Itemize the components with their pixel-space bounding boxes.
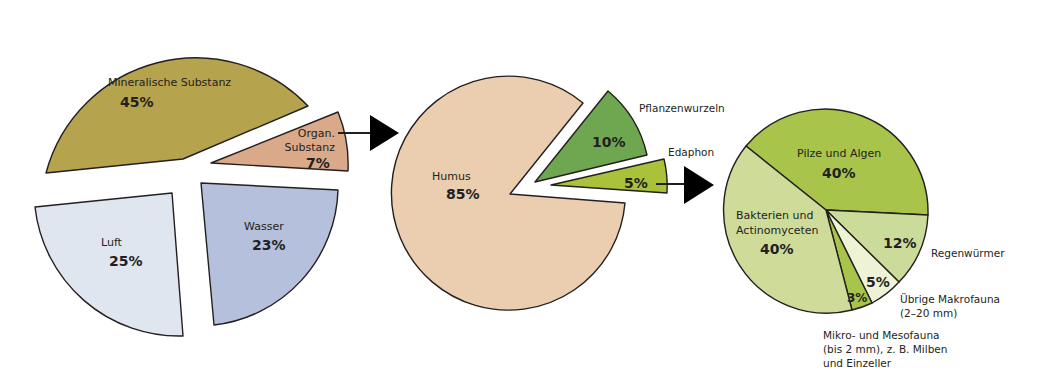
label-mikro-1: Mikro- und Mesofauna [823,329,940,341]
pct-luft: 25% [109,253,143,269]
label-uebrige-2: (2–20 mm) [900,307,957,319]
pct-uebrige: 5% [866,274,890,290]
pie-organic-substance: Humus 85% 10% Pflanzenwurzeln 5% Edaphon [391,76,724,310]
label-mikro-3: und Einzeller [823,357,892,369]
pct-pflanzen: 10% [592,134,626,150]
pie-soil-composition: Mineralische Substanz 45% Organ. Substan… [35,58,348,336]
pct-regen: 12% [883,235,917,251]
pct-bakterien: 40% [760,241,794,257]
label-mineral: Mineralische Substanz [108,76,231,89]
label-regen: Regenwürmer [931,247,1005,259]
soil-composition-chart: Mineralische Substanz 45% Organ. Substan… [0,0,1043,391]
pct-pilze: 40% [822,165,856,181]
label-bakterien-1: Bakterien und [736,209,813,222]
label-humus: Humus [432,170,471,183]
label-mikro-2: (bis 2 mm), z. B. Milben [823,343,947,355]
pct-humus: 85% [446,186,480,202]
slice-wasser [201,183,338,325]
slice-humus [391,76,625,310]
label-uebrige-1: Übrige Makrofauna [900,293,1000,305]
label-pflanzen: Pflanzenwurzeln [639,102,725,114]
label-edaphon: Edaphon [668,146,714,158]
pie-edaphon-composition: Pilze und Algen 40% Bakterien und Actino… [724,109,1006,369]
pct-edaphon: 5% [624,175,648,191]
label-wasser: Wasser [244,220,284,233]
pct-wasser: 23% [252,237,286,253]
label-organ-1: Organ. [298,127,335,140]
pct-mineral: 45% [120,94,154,110]
pct-organ: 7% [306,155,330,171]
pct-mikro: 3% [847,291,867,305]
label-organ-2: Substanz [285,141,336,154]
label-bakterien-2: Actinomyceten [736,224,819,237]
label-pilze: Pilze und Algen [797,147,881,160]
label-luft: Luft [101,236,123,249]
